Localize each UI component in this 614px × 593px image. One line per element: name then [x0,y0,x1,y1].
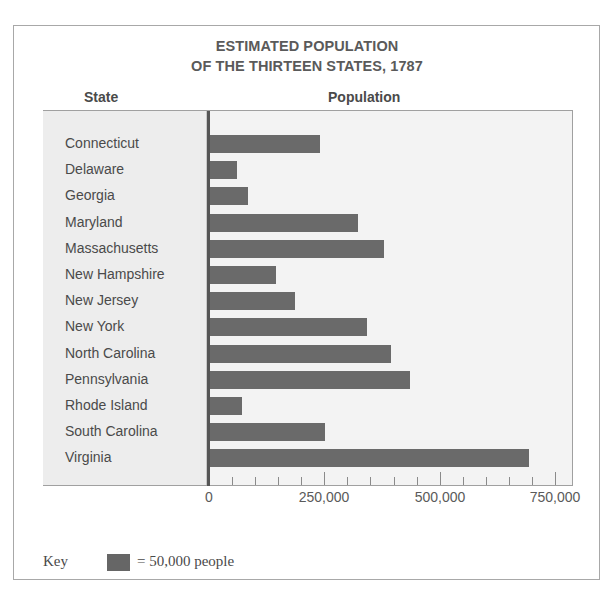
population-bar [210,135,320,153]
state-label: South Carolina [65,422,158,440]
population-column-header: Population [328,89,400,105]
chart-title: ESTIMATED POPULATION OF THE THIRTEEN STA… [0,36,614,76]
x-axis-tick [232,477,233,485]
chart-title-line-1: ESTIMATED POPULATION [0,36,614,56]
x-axis-tick [278,477,279,485]
x-axis-tick [255,477,256,485]
population-bar [210,214,358,232]
state-label: Maryland [65,213,123,231]
population-bar [210,187,248,205]
state-label: New York [65,317,124,335]
x-axis-tick [347,477,348,485]
x-tick-label-250000: 250,000 [299,489,350,505]
population-bar [210,161,237,179]
state-label: Delaware [65,160,124,178]
population-bar [210,266,276,284]
x-axis-tick [486,477,487,485]
state-column-header: State [84,89,118,105]
state-label: New Hampshire [65,265,165,283]
key-label: Key [43,553,68,570]
state-label: Connecticut [65,134,139,152]
population-bar [210,345,391,363]
population-bar [210,318,367,336]
y-axis-line [207,111,210,486]
x-axis-tick [417,477,418,485]
population-bar [210,371,410,389]
key-text: = 50,000 people [137,553,234,570]
key-swatch [107,554,130,571]
state-label: Pennsylvania [65,370,148,388]
state-label: New Jersey [65,291,138,309]
x-tick-label-750000: 750,000 [530,489,581,505]
x-tick-label-0: 0 [205,489,213,505]
x-axis-tick [370,477,371,485]
chart-title-line-2: OF THE THIRTEEN STATES, 1787 [0,56,614,76]
x-axis-tick [440,472,441,485]
population-bar [210,397,242,415]
x-axis-tick [394,477,395,485]
state-label: Massachusetts [65,239,158,257]
state-label: Virginia [65,448,111,466]
x-axis-tick [301,477,302,485]
x-axis-tick [555,472,556,485]
state-label: North Carolina [65,344,155,362]
x-axis-tick [463,477,464,485]
population-bar [210,449,529,467]
x-tick-label-500000: 500,000 [415,489,466,505]
state-label: Rhode Island [65,396,148,414]
x-axis-tick [509,477,510,485]
state-label: Georgia [65,186,115,204]
population-bar [210,423,325,441]
x-axis-tick [532,477,533,485]
population-bar [210,292,295,310]
x-axis-tick [324,472,325,485]
population-bar [210,240,384,258]
